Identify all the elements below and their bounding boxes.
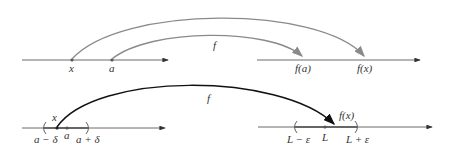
label-fa: f(a)	[295, 62, 311, 75]
top-function-label: f	[213, 39, 218, 51]
bottom-function-label: f	[207, 92, 212, 104]
label-fx-bottom: f(x)	[339, 109, 355, 122]
limit-definition-diagram: f x a f(a) f(x) f x a a − δ a + δ f(x) L…	[0, 0, 449, 145]
label-L: L	[321, 131, 328, 143]
label-a-plus-delta: a + δ	[76, 133, 100, 145]
label-fx: f(x)	[357, 62, 373, 75]
mapping-arrow-a-to-fa	[112, 35, 302, 59]
label-L-plus-epsilon: L + ε	[345, 133, 370, 145]
bottom-range-axis	[258, 121, 432, 133]
label-x: x	[68, 62, 74, 74]
label-x-bottom: x	[51, 111, 57, 123]
label-a-bottom: a	[64, 129, 70, 141]
mapping-arrow-x-to-fx	[72, 18, 364, 59]
label-a: a	[109, 62, 115, 74]
point-L	[323, 125, 326, 128]
top-domain-axis	[22, 58, 168, 61]
label-a-minus-delta: a − δ	[34, 133, 58, 145]
label-L-minus-epsilon: L − ε	[286, 133, 311, 145]
mapping-arrow-x-to-fx-bottom	[57, 85, 334, 127]
